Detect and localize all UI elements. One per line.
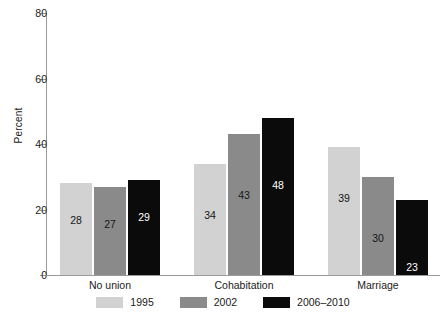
bar-chart: Percent 020406080 282729344348393023 No …: [0, 0, 446, 320]
bar-value-label: 23: [396, 262, 428, 273]
legend-swatch: [96, 297, 123, 308]
y-axis-tick-label: 20: [13, 205, 47, 215]
bar[interactable]: 23: [396, 200, 428, 275]
legend-label: 1995: [130, 297, 153, 308]
legend-swatch: [180, 297, 207, 308]
x-axis-line: [46, 275, 440, 276]
bar-group: 344348: [194, 13, 294, 275]
bar[interactable]: 27: [94, 187, 126, 275]
bar[interactable]: 34: [194, 164, 226, 275]
bar-value-label: 34: [194, 210, 226, 221]
bar-value-label: 29: [128, 212, 160, 223]
plot-area: 282729344348393023: [46, 13, 440, 275]
bar[interactable]: 29: [128, 180, 160, 275]
legend-label: 2002: [214, 297, 237, 308]
bar-group: 393023: [328, 13, 428, 275]
legend-label: 2006–2010: [297, 297, 350, 308]
legend-swatch: [263, 297, 290, 308]
legend-item[interactable]: 2006–2010: [263, 297, 350, 308]
bar[interactable]: 39: [328, 147, 360, 275]
y-axis-tick-label: 60: [13, 74, 47, 84]
bar-value-label: 43: [228, 190, 260, 201]
bar-value-label: 30: [362, 233, 394, 244]
bar-value-label: 39: [328, 193, 360, 204]
bar-value-label: 28: [60, 215, 92, 226]
chart-legend: 199520022006–2010: [0, 297, 446, 308]
bar[interactable]: 48: [262, 118, 294, 275]
legend-item[interactable]: 1995: [96, 297, 153, 308]
y-axis-tick-label: 40: [13, 139, 47, 149]
bar-value-label: 27: [94, 219, 126, 230]
bar[interactable]: 30: [362, 177, 394, 275]
bar-group: 282729: [60, 13, 160, 275]
bar[interactable]: 28: [60, 183, 92, 275]
legend-item[interactable]: 2002: [180, 297, 237, 308]
y-axis-title: Percent: [13, 86, 24, 166]
x-axis-label-marriage: Marriage: [298, 279, 446, 291]
bar-value-label: 48: [262, 180, 294, 191]
y-axis-tick-label: 80: [13, 8, 47, 18]
bar[interactable]: 43: [228, 134, 260, 275]
